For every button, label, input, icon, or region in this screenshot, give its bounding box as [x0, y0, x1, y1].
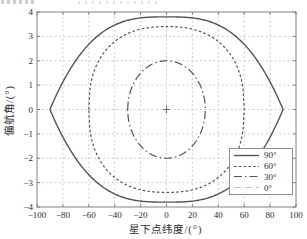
legend-item-0°: 0°	[233, 183, 289, 193]
svg-text:−3: −3	[23, 178, 33, 188]
legend-label: 30°	[264, 172, 277, 182]
svg-text:40: 40	[214, 210, 224, 220]
legend-line-sample	[233, 162, 260, 171]
svg-text:4: 4	[29, 7, 34, 17]
legend: 90°60°30°0°	[229, 148, 293, 195]
x-tick-labels: −100−80−60−40−20020406080100	[28, 210, 304, 220]
svg-text:−80: −80	[56, 210, 71, 220]
legend-line-sample	[233, 183, 260, 192]
curve-0°-origin-marker	[163, 106, 170, 113]
svg-text:−2: −2	[23, 153, 33, 163]
legend-item-30°: 30°	[233, 172, 289, 182]
svg-text:0: 0	[29, 105, 34, 115]
svg-text:60: 60	[240, 210, 250, 220]
svg-text:−1: −1	[23, 129, 33, 139]
svg-text:20: 20	[188, 210, 198, 220]
legend-label: 90°	[264, 150, 277, 160]
legend-line-sample	[233, 172, 260, 181]
legend-item-60°: 60°	[233, 161, 289, 171]
svg-text:80: 80	[266, 210, 276, 220]
x-axis-label: 星下点纬度/(°)	[106, 221, 226, 236]
legend-line-sample	[233, 151, 260, 160]
y-tick-labels: −4−3−2−101234	[23, 7, 33, 212]
svg-text:−40: −40	[108, 210, 123, 220]
svg-text:3: 3	[29, 31, 34, 41]
svg-text:−60: −60	[82, 210, 97, 220]
svg-text:−4: −4	[23, 202, 33, 212]
legend-item-90°: 90°	[233, 150, 289, 160]
svg-text:0: 0	[164, 210, 169, 220]
svg-text:1: 1	[29, 80, 34, 90]
figure-yaw-vs-latitude: −100−80−60−40−20020406080100−4−3−2−10123…	[0, 0, 307, 239]
y-axis-label: 偏航角/(°)	[1, 61, 14, 161]
svg-text:−20: −20	[134, 210, 149, 220]
svg-text:100: 100	[289, 210, 303, 220]
legend-label: 60°	[264, 161, 277, 171]
plot-area: −100−80−60−40−20020406080100−4−3−2−10123…	[0, 0, 307, 239]
svg-text:2: 2	[29, 56, 34, 66]
legend-label: 0°	[264, 183, 272, 193]
